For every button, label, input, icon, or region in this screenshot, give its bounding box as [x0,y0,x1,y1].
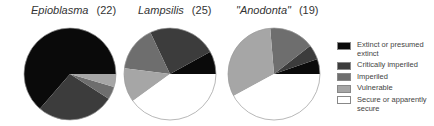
legend-swatch [337,42,351,50]
legend-label: Extinct or presumed extinct [357,40,432,58]
legend-item-imperiled: Imperiled [337,72,432,82]
genus-name: "Anodonta" [236,4,291,16]
genus-name: Epioblasma [31,4,88,16]
legend-label: Critically imperiled [357,60,432,69]
pie-chart-epioblasma [22,26,118,122]
pie-chart-lampsilis [122,26,218,122]
legend-item-secure: Secure or apparently secure [337,95,432,113]
legend-item-vulnerable: Vulnerable [337,83,432,93]
legend-label: Vulnerable [357,83,432,92]
pie-title-lampsilis: Lampsilis(25) [138,4,211,16]
legend-label: Imperiled [357,72,432,81]
legend-label: Secure or apparently secure [357,95,432,113]
pie-title-epioblasma: Epioblasma(22) [31,4,116,16]
legend-swatch [337,73,351,81]
legend-swatch [337,62,351,70]
legend-item-extinct: Extinct or presumed extinct [337,40,432,58]
genus-name: Lampsilis [138,4,184,16]
chart-legend: Extinct or presumed extinct Critically i… [337,40,432,115]
species-count: (19) [299,4,319,16]
species-count: (22) [96,4,116,16]
legend-item-critically-imperiled: Critically imperiled [337,60,432,70]
pie-chart-anodonta [226,26,322,122]
legend-swatch [337,85,351,93]
species-count: (25) [192,4,212,16]
legend-swatch [337,96,351,104]
pie-title-anodonta: "Anodonta"(19) [236,4,318,16]
